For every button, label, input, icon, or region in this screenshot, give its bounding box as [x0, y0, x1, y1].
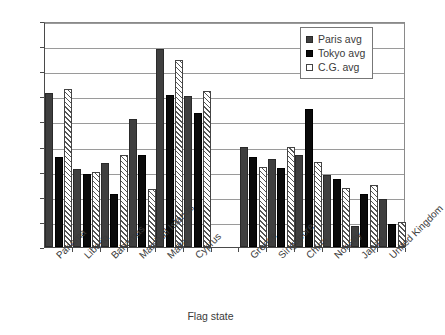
legend-swatch-tokyo-avg [306, 50, 313, 57]
bar [249, 157, 257, 247]
bar [64, 89, 72, 247]
bar [287, 147, 295, 247]
bar [184, 96, 192, 247]
bar [156, 49, 164, 247]
bar [45, 93, 53, 247]
legend-item-paris-avg: Paris avg [306, 32, 365, 46]
bar [277, 168, 285, 247]
legend: Paris avg Tokyo avg C.G. avg [300, 27, 373, 79]
legend-item-tokyo-avg: Tokyo avg [306, 46, 365, 60]
bar [333, 179, 341, 247]
x-axis-title: Flag state [0, 310, 421, 322]
legend-item-cg-avg: C.G. avg [306, 60, 365, 74]
legend-label-cg-avg: C.G. avg [318, 62, 359, 73]
legend-label-paris-avg: Paris avg [318, 34, 362, 45]
legend-swatch-cg-avg [306, 64, 313, 71]
bar [360, 194, 368, 247]
bar [55, 157, 63, 247]
bar [194, 113, 202, 247]
y-axis-tick-mark [40, 248, 44, 249]
bar [110, 194, 118, 247]
legend-label-tokyo-avg: Tokyo avg [318, 48, 365, 59]
bar [240, 147, 248, 247]
x-axis-tick-mark [238, 248, 239, 252]
bar [120, 155, 128, 247]
legend-swatch-paris-avg [306, 36, 313, 43]
bar [203, 91, 211, 247]
